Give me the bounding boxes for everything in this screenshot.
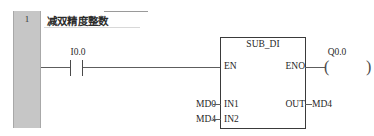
pin-out: OUT [285, 99, 305, 109]
coil-paren-left[interactable]: ( [324, 59, 329, 75]
ladder-diagram-canvas: 1 减双精度整数 I0.0 SUB_DI EN ENO IN1 IN2 OUT … [0, 0, 374, 136]
network-selector-bar[interactable] [13, 11, 41, 128]
operand-in2[interactable]: MD4 [182, 114, 216, 124]
pin-eno: ENO [285, 61, 305, 71]
contact-bar-left [70, 60, 71, 76]
pin-stub-out [305, 104, 312, 105]
normally-open-contact-icon[interactable] [70, 60, 83, 76]
coil-label-q0-0: Q0.0 [322, 47, 352, 57]
operand-in1[interactable]: MD0 [182, 99, 216, 109]
network-number: 1 [13, 12, 41, 26]
pin-in2: IN2 [224, 114, 239, 124]
network-title-divider [44, 27, 140, 28]
pin-stub-in2 [213, 119, 221, 120]
pin-en: EN [224, 61, 237, 71]
contact-label-i0-0: I0.0 [64, 47, 92, 57]
rung-wire-left [41, 67, 71, 68]
pin-in1: IN1 [224, 99, 239, 109]
coil-paren-right[interactable]: ) [366, 59, 371, 75]
pin-stub-in1 [213, 104, 221, 105]
network-header-rule [104, 11, 148, 12]
operand-out[interactable]: MD4 [312, 99, 332, 109]
rung-wire-to-en [83, 67, 221, 68]
contact-bar-right [82, 60, 83, 76]
rung-wire-to-coil [305, 67, 325, 68]
function-block-title: SUB_DI [220, 39, 306, 49]
network-title[interactable]: 减双精度整数 [47, 13, 108, 28]
